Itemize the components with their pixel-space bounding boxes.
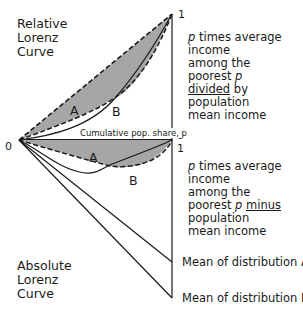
desc-text: poorest bbox=[188, 69, 235, 83]
title-line: Relative bbox=[17, 17, 67, 31]
lower-curve-b-label: B bbox=[129, 174, 138, 188]
absolute-lorenz-title: Absolute Lorenz Curve bbox=[17, 259, 72, 301]
title-line: Curve bbox=[17, 45, 67, 59]
upper-curve-b-label: B bbox=[112, 105, 121, 119]
title-line: Lorenz bbox=[17, 31, 67, 45]
origin-label: 0 bbox=[5, 141, 12, 153]
x-axis-label: Cumulative pop. share, p bbox=[79, 128, 188, 138]
lower-top-tick: 1 bbox=[177, 143, 184, 155]
desc-underlined-minus: minus bbox=[246, 198, 281, 212]
desc-text: times average bbox=[195, 159, 281, 173]
absolute-description: p times average income among the poorest… bbox=[188, 160, 282, 238]
mean-b-label: Mean of distribution B bbox=[182, 292, 303, 305]
title-line: Lorenz bbox=[17, 273, 72, 287]
desc-text: times average bbox=[195, 30, 281, 44]
mean-a-label: Mean of distribution A bbox=[182, 256, 303, 269]
lower-curve-a-label: A bbox=[89, 151, 98, 165]
relative-lorenz-title: Relative Lorenz Curve bbox=[17, 17, 67, 59]
desc-underlined-divided: divided bbox=[188, 82, 230, 96]
desc-italic-p: p bbox=[235, 69, 242, 83]
title-line: Curve bbox=[17, 287, 72, 301]
desc-text: poorest bbox=[188, 198, 235, 212]
desc-text: mean income bbox=[188, 109, 282, 122]
desc-text: mean income bbox=[188, 225, 282, 238]
title-line: Absolute bbox=[17, 259, 72, 273]
desc-text: by bbox=[230, 82, 248, 96]
upper-curve-a-label: A bbox=[70, 104, 79, 118]
upper-top-tick: 1 bbox=[178, 9, 185, 21]
relative-description: p times average income among the poorest… bbox=[188, 31, 282, 122]
